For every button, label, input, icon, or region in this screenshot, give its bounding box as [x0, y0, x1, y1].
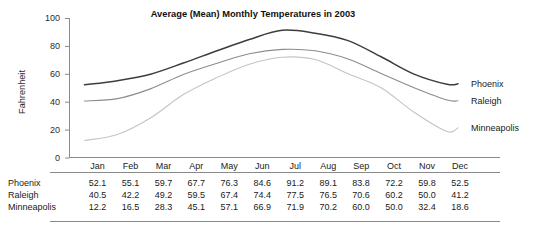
- table-column-header: May: [221, 161, 239, 171]
- table-cell: 66.9: [254, 202, 272, 212]
- y-tick-label: 80: [50, 41, 60, 51]
- table-cell: 74.4: [254, 190, 272, 200]
- series-label: Phoenix: [471, 79, 504, 89]
- table-column-header: Jan: [90, 161, 105, 171]
- series-label: Raleigh: [471, 96, 502, 106]
- table-cell: 18.6: [451, 202, 469, 212]
- table-cell: 83.8: [352, 178, 370, 188]
- table-column-header: Jul: [289, 161, 301, 171]
- table-row-header: Minneapolis: [8, 202, 57, 212]
- table-cell: 50.0: [418, 190, 436, 200]
- series-line: [85, 49, 459, 101]
- y-axis-title: Fahrenheit: [17, 70, 27, 114]
- chart-title: Average (Mean) Monthly Temperatures in 2…: [151, 9, 356, 19]
- series-line: [85, 30, 459, 85]
- table-column-header: Jun: [255, 161, 270, 171]
- table-row-header: Raleigh: [8, 190, 39, 200]
- table-cell: 50.0: [385, 202, 403, 212]
- y-tick-label: 60: [50, 69, 60, 79]
- y-axis-tick-labels: 020406080100: [45, 13, 60, 163]
- table-cell: 76.3: [221, 178, 239, 188]
- table-cell: 40.5: [89, 190, 107, 200]
- temperature-chart-figure: Average (Mean) Monthly Temperatures in 2…: [0, 0, 538, 230]
- table-cell: 52.1: [89, 178, 107, 188]
- table-column-header: Apr: [189, 161, 203, 171]
- table-cell: 41.2: [451, 190, 469, 200]
- table-column-header: Oct: [387, 161, 402, 171]
- y-tick-label: 40: [50, 97, 60, 107]
- table-cell: 55.1: [122, 178, 140, 188]
- table-cell: 28.3: [155, 202, 173, 212]
- table-column-header: Nov: [419, 161, 436, 171]
- table-cell: 84.6: [254, 178, 272, 188]
- table-cell: 59.8: [418, 178, 436, 188]
- table-cell: 91.2: [286, 178, 304, 188]
- table-cell: 67.4: [221, 190, 239, 200]
- table-cell: 42.2: [122, 190, 140, 200]
- table-column-header: Mar: [156, 161, 172, 171]
- y-axis-tick-marks: [65, 19, 70, 159]
- series-label: Minneapolis: [471, 123, 520, 133]
- table-cell: 57.1: [221, 202, 239, 212]
- table-cell: 71.9: [286, 202, 304, 212]
- series-line: [85, 57, 459, 141]
- table-cell: 49.2: [155, 190, 173, 200]
- table-column-header: Feb: [123, 161, 139, 171]
- table-cell: 60.2: [385, 190, 403, 200]
- table-cell: 76.5: [319, 190, 337, 200]
- table-cell: 59.7: [155, 178, 173, 188]
- y-tick-label: 0: [55, 153, 60, 163]
- series-lines-group: [85, 30, 459, 140]
- chart-svg: Average (Mean) Monthly Temperatures in 2…: [0, 0, 538, 230]
- table-cell: 77.5: [286, 190, 304, 200]
- table-cell: 70.2: [319, 202, 337, 212]
- table-cell: 72.2: [385, 178, 403, 188]
- table-cell: 70.6: [352, 190, 370, 200]
- table-row-header: Phoenix: [8, 178, 41, 188]
- table-column-header: Sep: [353, 161, 369, 171]
- table-cell: 45.1: [188, 202, 206, 212]
- y-tick-label: 20: [50, 125, 60, 135]
- table-column-header: Aug: [320, 161, 336, 171]
- table-cell: 89.1: [319, 178, 337, 188]
- table-cell: 67.7: [188, 178, 206, 188]
- table-cell: 16.5: [122, 202, 140, 212]
- table-column-headers: JanFebMarAprMayJunJulAugSepOctNovDec: [90, 161, 468, 171]
- table-cell: 12.2: [89, 202, 107, 212]
- series-inline-labels: PhoenixRaleighMinneapolis: [471, 79, 520, 133]
- table-cell: 60.0: [352, 202, 370, 212]
- table-row-headers: PhoenixRaleighMinneapolis: [8, 178, 57, 212]
- table-cell: 32.4: [418, 202, 436, 212]
- table-cell: 59.5: [188, 190, 206, 200]
- table-cells: 52.155.159.767.776.384.691.289.183.872.2…: [89, 178, 469, 212]
- table-column-header: Dec: [452, 161, 469, 171]
- table-cell: 52.5: [451, 178, 469, 188]
- y-tick-label: 100: [45, 13, 60, 23]
